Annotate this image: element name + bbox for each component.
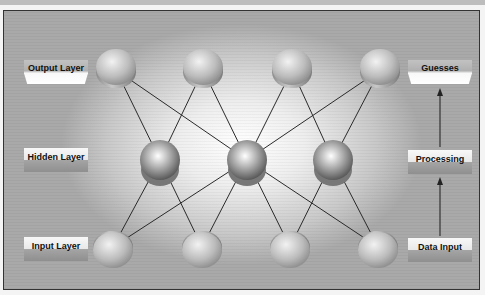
arrow-up-icon bbox=[437, 88, 443, 96]
arrow-up-icon bbox=[437, 177, 443, 185]
flow-arrows bbox=[0, 0, 485, 295]
